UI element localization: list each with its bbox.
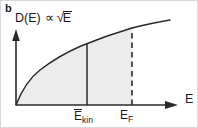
proportional-to-symbol: ∝	[45, 12, 54, 25]
x-axis-label: E	[185, 93, 193, 106]
formula-left-hand-side: D(E)	[15, 12, 41, 25]
tick-label-ekin: E kin	[74, 109, 93, 123]
formula-annotation: D(E) ∝ √ E	[15, 11, 72, 25]
radicand-energy: E	[63, 11, 72, 25]
tick-label-ekin-subscript: kin	[82, 116, 93, 125]
square-root-expression: √ E	[57, 11, 72, 25]
panel-label: b	[5, 3, 12, 14]
tick-label-ef-base: E	[120, 109, 128, 121]
density-of-states-figure: b D(E) ∝ √ E E E kin E F	[0, 0, 198, 128]
y-axis-arrowhead	[12, 29, 20, 41]
tick-label-ef: E F	[120, 109, 133, 121]
tick-label-ef-subscript: F	[128, 115, 133, 124]
tick-label-ekin-base: E	[74, 109, 82, 123]
shaded-area-under-curve	[16, 28, 132, 105]
x-axis-arrowhead	[165, 101, 178, 109]
